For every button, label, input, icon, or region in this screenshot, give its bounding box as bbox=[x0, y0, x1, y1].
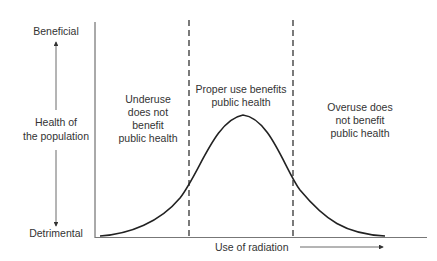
y-axis-label-line1: Health of bbox=[10, 116, 102, 129]
y-axis-label-line2: the population bbox=[10, 130, 102, 143]
x-axis-label: Use of radiation bbox=[215, 241, 295, 254]
y-bottom-label: Detrimental bbox=[20, 227, 92, 240]
y-top-label: Beneficial bbox=[24, 25, 88, 38]
